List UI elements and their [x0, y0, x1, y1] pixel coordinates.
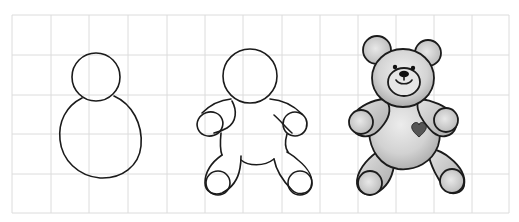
step-2-outline: [194, 49, 312, 195]
left-shoulder: [202, 99, 231, 113]
left-side: [220, 133, 222, 155]
right-foot: [440, 169, 464, 193]
left-foot: [206, 171, 230, 195]
body-oval: [60, 96, 142, 178]
right-paw: [434, 108, 458, 132]
belly-bottom: [241, 159, 274, 165]
right-eye: [411, 66, 415, 70]
drawing-tutorial: How to draw a teddy bear: [0, 0, 519, 222]
right-foot: [288, 171, 312, 195]
step-3-finished-bear: [349, 36, 464, 195]
left-eye: [393, 65, 397, 69]
left-foot: [358, 171, 382, 195]
step-1-sketch: [60, 53, 142, 178]
right-paw: [280, 109, 311, 140]
head-circle: [72, 53, 120, 101]
drawing-canvas: [0, 0, 519, 222]
left-paw: [349, 110, 373, 134]
right-side: [286, 134, 288, 152]
left-arm-inner: [214, 101, 235, 133]
